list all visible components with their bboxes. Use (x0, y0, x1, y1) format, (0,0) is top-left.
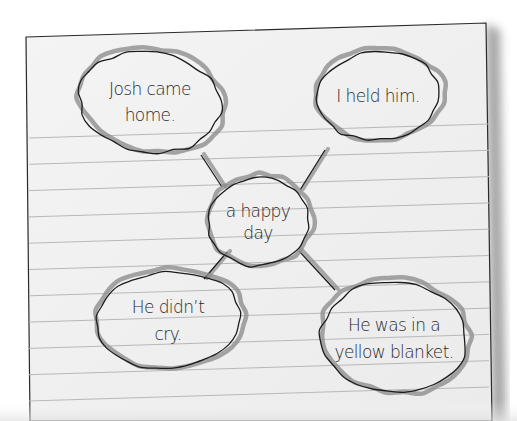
node-text-line: Josh came (109, 79, 191, 99)
bottom-fade (0, 400, 517, 421)
lined-paper-photo: a happydayJosh camehome.I held him.He di… (0, 0, 517, 421)
node-text-line: yellow blanket. (334, 342, 453, 362)
idea-web-drawing: a happydayJosh camehome.I held him.He di… (0, 0, 517, 421)
node-text-line: cry. (155, 324, 182, 344)
node-text-line: a happy (226, 201, 291, 221)
node-text-line: I held him. (336, 86, 419, 106)
node-text-line: He didn’t (132, 297, 204, 317)
node-text-line: day (243, 223, 273, 243)
node-text-line: He was in a (348, 315, 440, 335)
node-text-line: home. (125, 105, 176, 125)
